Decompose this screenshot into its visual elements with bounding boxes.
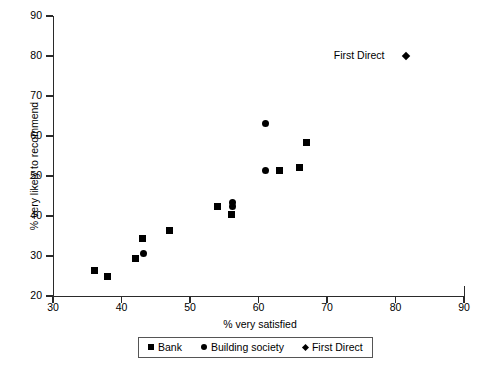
data-point-square — [104, 273, 111, 280]
y-axis-title-host: % very likely to recommend — [14, 40, 30, 260]
data-point-square — [91, 267, 98, 274]
x-tick-label-30: 30 — [33, 302, 73, 313]
data-point-square — [214, 203, 221, 210]
y-tick-70 — [46, 95, 53, 96]
y-tick-30 — [46, 255, 53, 256]
x-tick-label-50: 50 — [170, 302, 210, 313]
data-point-circle — [229, 203, 236, 210]
square-marker-icon — [148, 344, 154, 350]
data-point-square — [276, 167, 283, 174]
data-point-square — [139, 235, 146, 242]
legend-item-first-direct[interactable]: First Direct — [303, 341, 363, 353]
y-axis-title: % very likely to recommend — [28, 56, 40, 276]
diamond-marker-icon — [302, 343, 309, 350]
data-point-square — [296, 164, 303, 171]
legend-label-first-direct: First Direct — [312, 341, 363, 353]
x-tick-label-40: 40 — [102, 302, 142, 313]
data-point-circle — [140, 250, 147, 257]
data-point-diamond — [402, 52, 410, 60]
x-tick-label-90: 90 — [444, 302, 484, 313]
legend-label-bank: Bank — [158, 341, 182, 353]
circle-marker-icon — [201, 344, 207, 350]
x-tick-label-70: 70 — [307, 302, 347, 313]
annotation-first-direct: First Direct — [334, 49, 385, 61]
y-tick-80 — [46, 55, 53, 56]
y-tick-90 — [46, 15, 53, 16]
data-point-circle — [262, 120, 269, 127]
data-point-square — [132, 255, 139, 262]
y-tick-label-20: 20 — [20, 290, 42, 301]
data-point-circle — [262, 167, 269, 174]
x-tick-label-80: 80 — [376, 302, 416, 313]
data-point-square — [166, 227, 173, 234]
y-tick-60 — [46, 135, 53, 136]
data-point-square — [303, 139, 310, 146]
legend-label-building-society: Building society — [211, 341, 284, 353]
y-tick-label-90: 90 — [20, 10, 42, 21]
chart-legend: Bank Building society First Direct — [138, 337, 373, 358]
scatter-chart: 2030405060708090 30405060708090 % very l… — [0, 0, 485, 372]
legend-item-building-society[interactable]: Building society — [201, 341, 284, 353]
data-point-square — [228, 211, 235, 218]
legend-item-bank[interactable]: Bank — [148, 341, 182, 353]
x-tick-label-60: 60 — [239, 302, 279, 313]
x-axis-title: % very satisfied — [90, 318, 430, 330]
y-tick-40 — [46, 215, 53, 216]
y-tick-50 — [46, 175, 53, 176]
plot-area — [53, 16, 464, 296]
